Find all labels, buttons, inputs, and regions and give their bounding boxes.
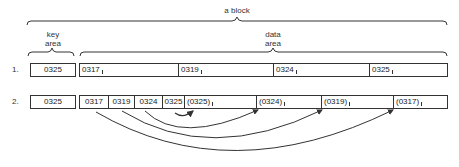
pointer-tick	[349, 102, 350, 106]
arrow-0324	[145, 110, 258, 128]
row-1-cell-0325: 0325	[370, 64, 447, 76]
block-brace	[27, 17, 447, 25]
key-area-line2: area	[36, 39, 70, 48]
diagram-lines	[0, 0, 459, 167]
row-1-cell-0317: 0317	[80, 64, 179, 76]
key-area-line1: key	[36, 30, 70, 39]
key-area-label: key area	[36, 30, 70, 48]
row-2-data-0317: (0317)	[394, 96, 447, 108]
row-2-key-box: 0325	[30, 95, 76, 109]
block-label: a block	[212, 6, 262, 15]
row-2-key: 0325	[31, 96, 75, 108]
row-2-key-0325: 0325	[163, 96, 185, 108]
pointer-tick	[212, 102, 213, 106]
row-2-label: 2.	[12, 97, 19, 106]
data-area-line1: data	[256, 30, 290, 39]
row-1-cell-0319: 0319	[179, 64, 274, 76]
pointer-tick	[201, 70, 202, 74]
row-1-data-box: 0317 0319 0324 0325	[79, 63, 448, 77]
row-1-key: 0325	[31, 64, 75, 76]
row-2-key-0319: 0319	[109, 96, 135, 108]
pointer-tick	[102, 70, 103, 74]
data-area-brace	[80, 48, 447, 56]
pointer-tick	[296, 70, 297, 74]
pointer-tick	[284, 102, 285, 106]
key-area-brace	[28, 48, 74, 56]
row-1-label: 1.	[12, 65, 19, 74]
pointer-tick	[392, 70, 393, 74]
row-2-data-0325: (0325)	[185, 96, 257, 108]
row-2-key-0317: 0317	[80, 96, 109, 108]
arrow-0325	[175, 111, 193, 116]
data-area-label: data area	[256, 30, 290, 48]
data-area-line2: area	[256, 39, 290, 48]
arrow-0319	[122, 110, 322, 138]
row-2-key-0324: 0324	[135, 96, 163, 108]
row-1-key-box: 0325	[30, 63, 76, 77]
row-2-data-box: 0317 0319 0324 0325 (0325) (0324) (0319)…	[79, 95, 448, 109]
row-2-data-0324: (0324)	[257, 96, 322, 108]
pointer-tick	[421, 102, 422, 106]
row-1-cell-0324: 0324	[274, 64, 370, 76]
row-2-data-0319: (0319)	[322, 96, 394, 108]
